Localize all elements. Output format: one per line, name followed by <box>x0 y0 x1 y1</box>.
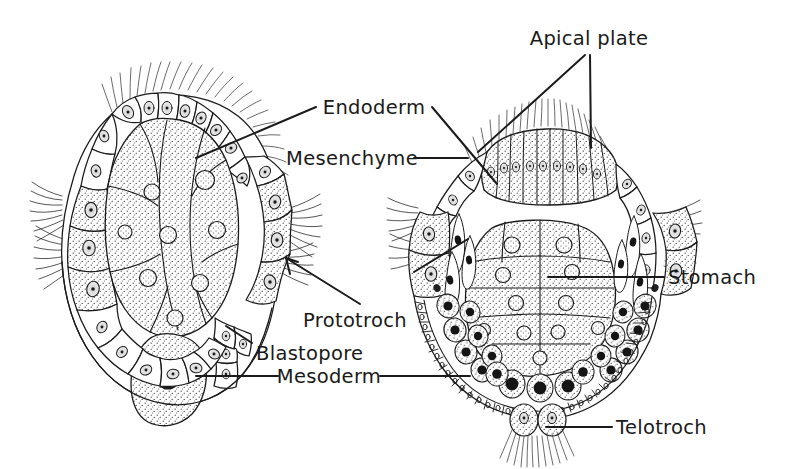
label-stomach: Stomach <box>668 266 756 289</box>
right-embryo <box>387 99 702 467</box>
label-apical-plate: Apical plate <box>530 27 648 50</box>
left-endoderm-mass <box>105 118 238 336</box>
telotroch-cilia <box>500 429 574 467</box>
label-prototroch: Prototroch <box>303 309 407 332</box>
label-endoderm: Endoderm <box>323 96 425 119</box>
apical-plate <box>482 129 618 205</box>
diagram-svg: Apical plate Endoderm Mesenchyme Stomach… <box>0 0 786 469</box>
label-blastopore: Blastopore <box>256 342 363 365</box>
leader-apical-plate-right <box>590 55 591 148</box>
label-mesenchyme: Mesenchyme <box>286 147 418 170</box>
figure-canvas: Apical plate Endoderm Mesenchyme Stomach… <box>0 0 786 469</box>
telotroch <box>500 404 574 467</box>
label-mesoderm: Mesoderm <box>277 365 381 388</box>
label-telotroch: Telotroch <box>615 416 707 439</box>
